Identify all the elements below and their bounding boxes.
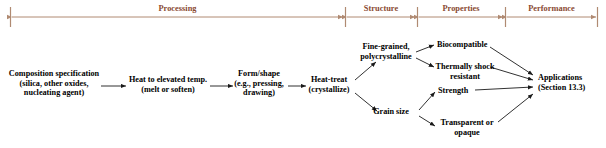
node-strength: Strength: [438, 86, 480, 96]
node-grain-size: Grain size: [362, 107, 420, 117]
edge-thermalshock-to-applications: [490, 67, 533, 80]
edge-biocompatible-to-applications: [490, 47, 533, 75]
node-form-shape: Form/shape (e.g., pressing, drawing): [228, 69, 290, 98]
node-heat-to-elevated-temp: Heat to elevated temp. (melt or soften): [124, 75, 212, 94]
edge-heattreat-to-finegrained: [355, 62, 376, 80]
node-biocompatible: Biocompatible: [437, 40, 495, 50]
node-transparent-or-opaque: Transparent or opaque: [436, 118, 498, 137]
node-fine-grained-polycrystalline: Fine-grained, polycrystalline: [354, 42, 418, 61]
header-label-properties: Properties: [417, 4, 505, 14]
header-label-structure: Structure: [345, 4, 417, 14]
node-heat-treat: Heat-treat (crystallize): [301, 75, 357, 94]
edge-finegrained-to-biocompatible: [416, 45, 434, 52]
edge-grainsize-to-strength: [419, 92, 435, 110]
node-applications: Applications (Section 13.3): [538, 73, 602, 92]
edge-strength-to-applications: [475, 87, 533, 90]
node-composition-specification: Composition specification (silica, other…: [6, 69, 102, 98]
edge-grainsize-to-transparent: [419, 116, 435, 126]
edge-finegrained-to-thermalshock: [416, 58, 434, 67]
edge-transparent-to-applications: [498, 94, 533, 122]
process-flow-diagram: Processing Structure Properties Performa…: [0, 0, 606, 148]
node-thermally-shock-resistant: Thermally shock resistant: [435, 62, 495, 81]
header-label-performance: Performance: [505, 4, 598, 14]
header-label-processing: Processing: [10, 4, 345, 14]
